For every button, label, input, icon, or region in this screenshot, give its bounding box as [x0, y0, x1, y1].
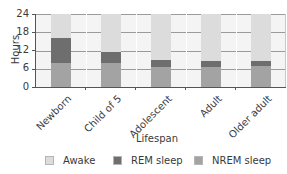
x-tick-label: Older adult — [226, 93, 273, 140]
bar-segment-rem-sleep — [151, 60, 171, 68]
bar-segment-awake — [201, 14, 221, 61]
legend-label: NREM sleep — [212, 155, 271, 166]
category-separator — [236, 14, 237, 87]
bar-segment-nrem-sleep — [151, 67, 171, 87]
y-tick — [32, 69, 36, 70]
bar-segment-rem-sleep — [201, 61, 221, 67]
stacked-bar-chart: 24 18 12 6 0 Hours Newborn Child of 5 Ad… — [0, 0, 287, 174]
y-tick — [32, 32, 36, 33]
y-tick — [32, 87, 36, 88]
bar-adult — [201, 14, 221, 87]
bar-segment-nrem-sleep — [251, 66, 271, 87]
bar-segment-awake — [151, 14, 171, 60]
plot-area — [36, 14, 286, 87]
x-tick-label: Adult — [198, 93, 224, 119]
legend-label: Awake — [63, 155, 95, 166]
x-axis-line — [33, 87, 286, 88]
x-tick — [135, 87, 136, 90]
x-tick — [185, 87, 186, 90]
legend-swatch-rem — [113, 156, 122, 165]
bar-segment-rem-sleep — [101, 52, 121, 63]
legend-item-rem: REM sleep — [113, 155, 183, 166]
bar-segment-nrem-sleep — [201, 67, 221, 87]
y-axis-title: Hours — [10, 33, 21, 67]
legend-swatch-awake — [45, 156, 54, 165]
legend-label: REM sleep — [131, 155, 183, 166]
bar-segment-rem-sleep — [51, 38, 71, 62]
bar-child-of-5 — [101, 14, 121, 87]
category-separator — [186, 14, 187, 87]
y-tick-label: 24 — [10, 9, 29, 19]
bar-segment-rem-sleep — [251, 61, 271, 66]
bar-older-adult — [251, 14, 271, 87]
y-tick-label: 0 — [10, 82, 29, 92]
bar-segment-awake — [251, 14, 271, 61]
bar-segment-nrem-sleep — [101, 63, 121, 87]
bar-segment-awake — [51, 14, 71, 38]
legend-swatch-nrem — [194, 156, 203, 165]
bar-newborn — [51, 14, 71, 87]
legend: Awake REM sleep NREM sleep — [0, 155, 287, 169]
bar-segment-awake — [101, 14, 121, 52]
x-tick-label: Child of 5 — [82, 93, 123, 134]
y-axis-line — [35, 14, 36, 88]
legend-item-awake: Awake — [45, 155, 95, 166]
y-tick — [32, 14, 36, 15]
category-separator — [86, 14, 87, 87]
y-tick — [32, 50, 36, 51]
bar-adolescent — [151, 14, 171, 87]
legend-item-nrem: NREM sleep — [194, 155, 271, 166]
bar-segment-nrem-sleep — [51, 63, 71, 87]
x-tick — [235, 87, 236, 90]
category-separator — [136, 14, 137, 87]
x-axis-title: Lifespan — [136, 133, 178, 144]
x-tick — [85, 87, 86, 90]
x-tick-label: Newborn — [34, 93, 73, 132]
